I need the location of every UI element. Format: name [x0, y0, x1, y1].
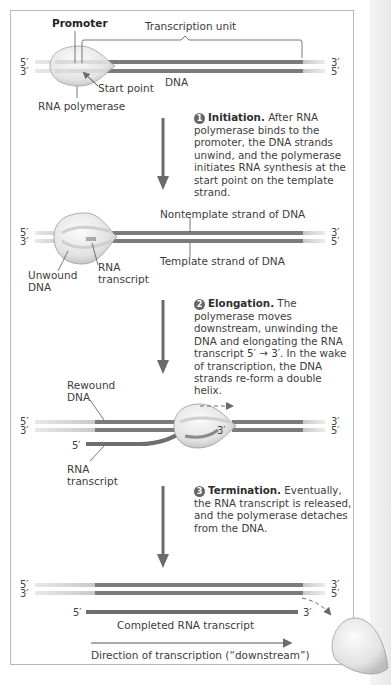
step-number-badge: 1 [194, 113, 205, 124]
label-rewound-dna: Rewound [67, 379, 115, 391]
label-dna: DNA [165, 76, 188, 88]
rna-polymerase-shape [54, 213, 117, 264]
label-transcription-unit: Transcription unit [145, 20, 236, 32]
completed-rna-strand [86, 610, 298, 614]
label-nontemplate-strand: Nontemplate strand of DNA [160, 208, 305, 220]
step-text: The polymerase moves downstream, unwindi… [194, 297, 346, 396]
label-3prime: 3′ [20, 237, 29, 246]
step-initiation: 1Initiation. After RNA polymerase binds … [194, 111, 352, 198]
label-template-strand: Template strand of DNA [160, 255, 285, 267]
label-rna-5prime: 5′ [72, 441, 81, 450]
step-heading: Initiation. [208, 111, 265, 123]
label-rna-transcript-2: transcript [67, 475, 118, 487]
label-5prime: 5′ [331, 237, 340, 246]
label-start-point: Start point [98, 82, 154, 94]
step-text: After RNA polymerase binds to the promot… [194, 111, 346, 198]
step-heading: Elongation. [208, 297, 274, 309]
label-5prime: 5′ [331, 426, 340, 435]
panel-3-elongation [35, 400, 325, 461]
step-number-badge: 2 [194, 299, 205, 310]
step-elongation: 2Elongation. The polymerase moves downst… [194, 297, 352, 397]
detached-polymerase [332, 618, 388, 674]
label-rna-transcript-2: transcript [98, 273, 149, 285]
label-direction: Direction of transcription (“downstream”… [91, 649, 310, 661]
rna-polymerase-shape [174, 404, 236, 448]
label-rna-transcript: RNA [67, 463, 89, 475]
step-number-badge: 3 [194, 486, 205, 497]
label-rna-transcript: RNA [98, 261, 120, 273]
label-rna-3prime: 3′ [303, 608, 312, 617]
label-rewound-dna-2: DNA [67, 391, 90, 403]
label-3prime: 3′ [20, 426, 29, 435]
label-unwound-dna-2: DNA [28, 281, 51, 293]
label-5prime: 5′ [331, 589, 340, 598]
label-rna-polymerase: RNA polymerase [38, 100, 125, 112]
label-5prime: 5′ [331, 67, 340, 76]
rna-polymerase-shape [50, 46, 115, 86]
label-unwound-dna: Unwound [28, 269, 77, 281]
label-rna-3prime: 3′ [217, 426, 226, 435]
step-heading: Termination. [208, 484, 281, 496]
label-promoter: Promoter [52, 17, 108, 29]
label-rna-5prime: 5′ [73, 608, 82, 617]
label-completed-rna: Completed RNA transcript [117, 619, 254, 631]
step-termination: 3Termination. Eventually, the RNA transc… [194, 484, 352, 534]
label-3prime: 3′ [20, 589, 29, 598]
label-3prime: 3′ [20, 67, 29, 76]
